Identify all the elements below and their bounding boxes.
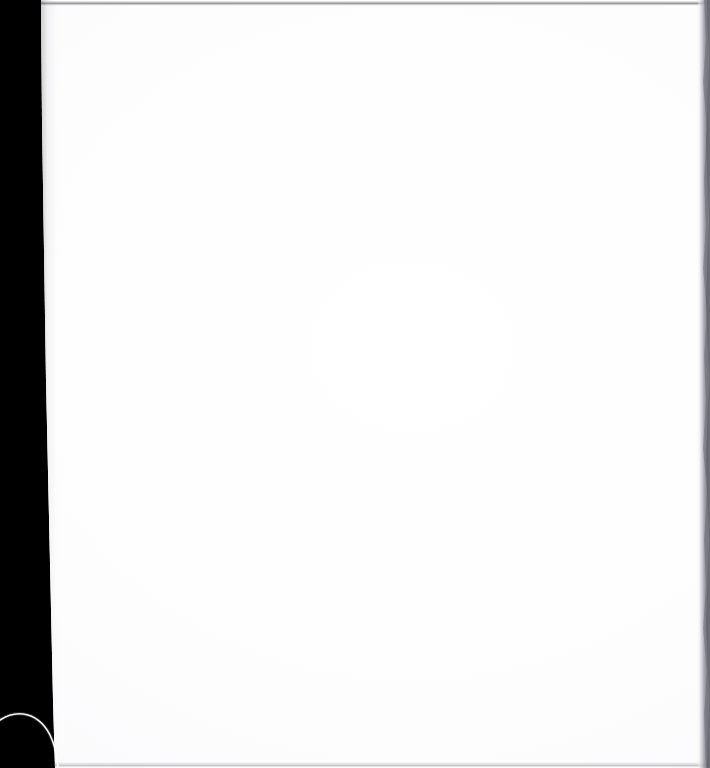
page-sheet — [0, 0, 710, 768]
scanned-page-canvas — [0, 0, 710, 768]
paper-grain-texture — [0, 0, 710, 768]
